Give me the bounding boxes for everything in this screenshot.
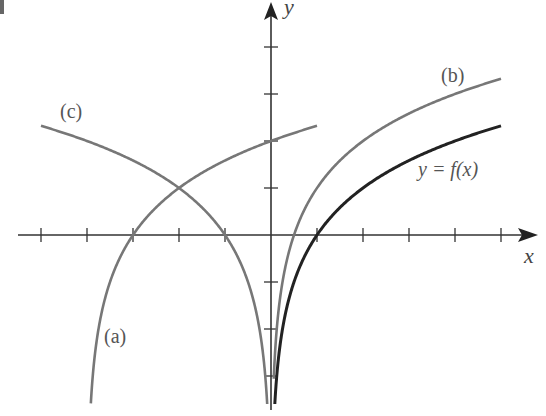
curve-c	[41, 126, 267, 404]
curve-label-c: (c)	[60, 100, 82, 123]
function-transformations-chart: x y (a) (b) (c) y = f(x)	[0, 0, 546, 416]
curve-label-b: (b)	[441, 64, 464, 87]
curve-label-a: (a)	[104, 325, 126, 348]
curve-b	[274, 79, 501, 379]
curve-a	[91, 126, 317, 403]
y-axis-label: y	[282, 0, 294, 19]
x-axis-label: x	[523, 243, 534, 268]
curve-label-f: y = f(x)	[416, 158, 478, 181]
